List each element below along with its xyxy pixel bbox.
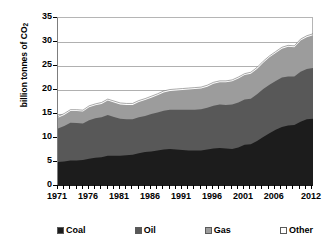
x-tick-mark	[162, 185, 163, 189]
legend-label: Other	[289, 225, 313, 235]
x-tick-mark	[206, 185, 207, 189]
legend-item-gas[interactable]: Gas	[205, 225, 231, 235]
x-tick-mark	[107, 185, 108, 189]
x-tick-mark	[255, 185, 256, 189]
x-tick-mark	[274, 185, 275, 189]
x-tick-mark	[268, 185, 269, 189]
x-tick-mark	[150, 185, 151, 189]
legend-label: Coal	[66, 225, 86, 235]
y-axis-title-subscript: 2	[22, 23, 29, 27]
x-tick-mark	[88, 185, 89, 189]
x-tick-mark	[156, 185, 157, 189]
plot-area	[57, 17, 313, 186]
y-tick-label: 20	[30, 84, 52, 93]
legend-swatch-icon	[57, 227, 64, 234]
x-tick-mark	[57, 185, 58, 189]
x-tick-label: 1971	[40, 191, 74, 201]
x-tick-label: 2012	[294, 191, 328, 201]
area-series-group	[58, 34, 313, 186]
x-tick-mark	[119, 185, 120, 189]
x-tick-mark	[125, 185, 126, 189]
legend-label: Gas	[214, 225, 231, 235]
x-tick-mark	[305, 185, 306, 189]
x-tick-mark	[100, 185, 101, 189]
legend-item-oil[interactable]: Oil	[135, 225, 156, 235]
y-tick-label: 5	[30, 156, 52, 165]
x-tick-label: 1991	[164, 191, 198, 201]
x-tick-mark	[138, 185, 139, 189]
x-tick-mark	[280, 185, 281, 189]
x-tick-label: 1976	[71, 191, 105, 201]
x-tick-mark	[113, 185, 114, 189]
x-tick-mark	[286, 185, 287, 189]
x-tick-mark	[249, 185, 250, 189]
y-tick-label: 0	[30, 180, 52, 189]
x-tick-mark	[200, 185, 201, 189]
chart-legend: CoalOilGasOther	[57, 223, 313, 237]
y-tick-label: 10	[30, 132, 52, 141]
co2-emissions-area-chart: billion tonnes of CO2 05101520253035 197…	[0, 0, 332, 250]
y-tick-label: 15	[30, 108, 52, 117]
x-tick-mark	[311, 185, 312, 189]
x-tick-mark	[76, 185, 77, 189]
x-tick-mark	[69, 185, 70, 189]
x-tick-mark	[181, 185, 182, 189]
x-tick-mark	[82, 185, 83, 189]
x-tick-mark	[299, 185, 300, 189]
x-tick-mark	[144, 185, 145, 189]
x-tick-label: 2001	[226, 191, 260, 201]
stacked-area-plot	[58, 18, 313, 186]
x-tick-mark	[224, 185, 225, 189]
y-tick-label: 30	[30, 36, 52, 45]
x-tick-mark	[193, 185, 194, 189]
y-tick-label: 35	[30, 12, 52, 21]
x-tick-mark	[231, 185, 232, 189]
legend-label: Oil	[144, 225, 156, 235]
x-tick-mark	[175, 185, 176, 189]
x-tick-mark	[63, 185, 64, 189]
x-tick-mark	[94, 185, 95, 189]
x-tick-label: 1981	[102, 191, 136, 201]
x-tick-label: 1986	[133, 191, 167, 201]
y-axis-title-text: billion tonnes of CO	[19, 26, 29, 107]
x-tick-mark	[169, 185, 170, 189]
legend-swatch-icon	[135, 227, 142, 234]
y-axis-title: billion tonnes of CO2	[19, 0, 29, 135]
x-tick-mark	[292, 185, 293, 189]
x-tick-mark	[243, 185, 244, 189]
x-tick-label: 1996	[195, 191, 229, 201]
legend-item-coal[interactable]: Coal	[57, 225, 86, 235]
x-tick-mark	[218, 185, 219, 189]
legend-swatch-icon	[205, 227, 212, 234]
x-tick-mark	[187, 185, 188, 189]
x-tick-mark	[131, 185, 132, 189]
x-tick-mark	[237, 185, 238, 189]
y-tick-label: 25	[30, 60, 52, 69]
legend-swatch-icon	[280, 227, 287, 234]
x-tick-mark	[261, 185, 262, 189]
legend-item-other[interactable]: Other	[280, 225, 313, 235]
x-tick-mark	[212, 185, 213, 189]
x-tick-label: 2006	[257, 191, 291, 201]
